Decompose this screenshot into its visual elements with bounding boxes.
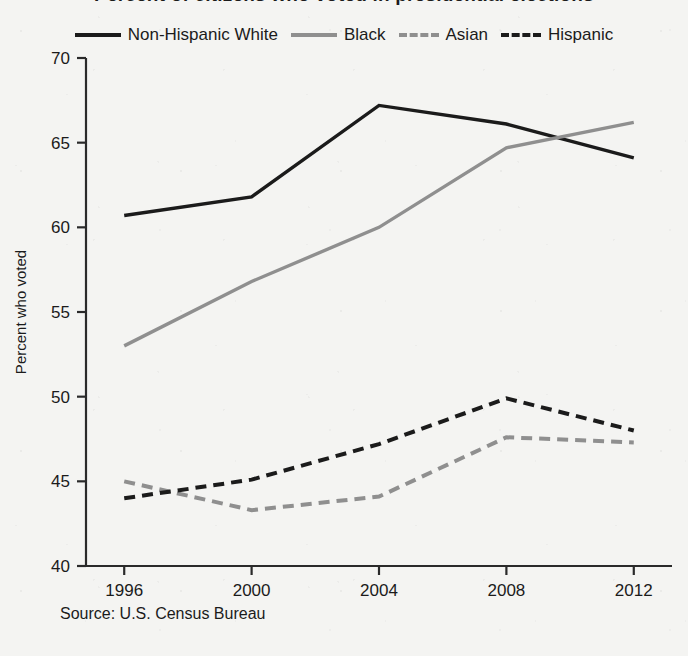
x-tick-label: 2012 — [615, 581, 653, 600]
x-tick-label: 2004 — [360, 581, 398, 600]
series-line-asian — [124, 437, 634, 510]
series-line-black — [124, 122, 634, 346]
y-axis-ticks: 70656055504540 — [51, 49, 86, 576]
y-axis-title: Percent who voted — [12, 250, 29, 374]
axis-lines — [86, 58, 672, 566]
chart-page: Percent of citizens who voted in preside… — [0, 0, 688, 656]
series-line-hispanic — [124, 398, 634, 498]
data-series-layer — [124, 105, 634, 510]
x-tick-label: 2000 — [233, 581, 271, 600]
y-tick-label: 40 — [51, 557, 70, 576]
x-tick-label: 1996 — [105, 581, 143, 600]
y-tick-label: 50 — [51, 388, 70, 407]
y-tick-label: 60 — [51, 218, 70, 237]
line-chart-plot: 70656055504540 19962000200420082012 Perc… — [0, 0, 688, 656]
x-tick-label: 2008 — [487, 581, 525, 600]
x-axis-ticks: 19962000200420082012 — [105, 566, 652, 600]
y-tick-label: 45 — [51, 472, 70, 491]
y-tick-label: 65 — [51, 134, 70, 153]
y-tick-label: 55 — [51, 303, 70, 322]
source-note: Source: U.S. Census Bureau — [60, 605, 265, 623]
y-tick-label: 70 — [51, 49, 70, 68]
series-line-non-hispanic-white — [124, 105, 634, 215]
